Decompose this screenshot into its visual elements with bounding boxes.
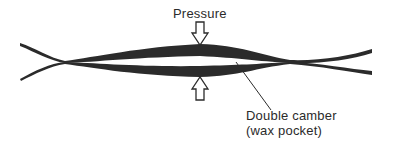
lower-ski-profile [20, 62, 372, 81]
pressure-label: Pressure [173, 6, 227, 21]
upper-ski-profile [20, 43, 372, 63]
callout-line-1: Double camber [246, 108, 337, 123]
pressure-arrow-up-icon [192, 77, 208, 100]
pressure-arrow-down-icon [192, 22, 208, 45]
double-camber-callout: Double camber (wax pocket) [246, 108, 337, 138]
callout-line-2: (wax pocket) [246, 123, 337, 138]
